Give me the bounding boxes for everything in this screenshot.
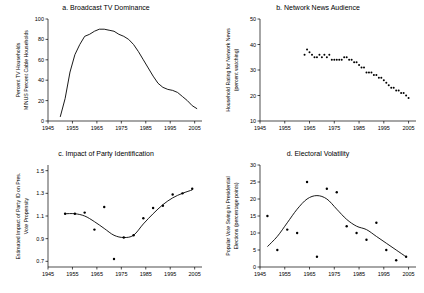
svg-text:1.3: 1.3 <box>36 190 44 196</box>
panel-d-title: d. Electoral Volatility <box>216 150 420 158</box>
svg-text:1985: 1985 <box>140 125 152 131</box>
svg-text:1995: 1995 <box>164 125 176 131</box>
svg-text:20: 20 <box>38 98 44 104</box>
panel-d-plot: 1945195519651975198519952005051015202530… <box>216 159 420 292</box>
svg-text:Popular Vote Swing in Presiden: Popular Vote Swing in Presidential <box>225 176 231 255</box>
svg-text:1965: 1965 <box>303 271 315 277</box>
panel-a-title: a. Broadcast TV Dominance <box>6 4 206 12</box>
svg-text:Estimated Impact of Party ID o: Estimated Impact of Party ID on Pres. <box>15 173 21 260</box>
svg-text:0.7: 0.7 <box>36 258 44 264</box>
svg-text:Vote Propensity: Vote Propensity <box>23 197 29 234</box>
svg-text:5: 5 <box>253 247 256 253</box>
svg-text:1985: 1985 <box>353 125 365 131</box>
svg-text:10: 10 <box>250 230 256 236</box>
panel-c: c. Impact of Party Identification 194519… <box>6 150 206 292</box>
svg-text:50: 50 <box>250 16 256 22</box>
svg-text:2005: 2005 <box>189 271 201 277</box>
svg-text:100: 100 <box>35 16 44 22</box>
panel-a: a. Broadcast TV Dominance 19451955196519… <box>6 4 206 144</box>
svg-text:1995: 1995 <box>164 271 176 277</box>
svg-text:1945: 1945 <box>254 125 266 131</box>
svg-text:MINUS Percent Cable Households: MINUS Percent Cable Households <box>23 30 29 110</box>
panel-c-plot: 19451955196519751985199520050.70.91.11.3… <box>6 159 206 292</box>
svg-text:20: 20 <box>250 196 256 202</box>
panel-d: d. Electoral Volatility 1945195519651975… <box>216 150 420 292</box>
svg-text:20: 20 <box>250 93 256 99</box>
svg-text:2005: 2005 <box>402 271 414 277</box>
svg-text:2005: 2005 <box>402 125 414 131</box>
svg-text:1995: 1995 <box>378 271 390 277</box>
svg-text:1965: 1965 <box>303 125 315 131</box>
figure-sheet: a. Broadcast TV Dominance 19451955196519… <box>0 0 424 293</box>
svg-text:40: 40 <box>250 42 256 48</box>
svg-text:60: 60 <box>38 57 44 63</box>
svg-text:40: 40 <box>38 77 44 83</box>
svg-text:30: 30 <box>250 162 256 168</box>
svg-text:Elections (percentage points): Elections (percentage points) <box>233 182 239 249</box>
svg-text:0: 0 <box>253 264 256 270</box>
svg-text:1965: 1965 <box>91 125 103 131</box>
svg-text:1975: 1975 <box>328 125 340 131</box>
svg-text:1965: 1965 <box>91 271 103 277</box>
panel-b-title: b. Network News Audience <box>216 4 420 12</box>
panel-c-title: c. Impact of Party Identification <box>6 150 206 158</box>
panel-b-plot: 19451955196519751985199520051020304050Ho… <box>216 13 420 145</box>
panel-a-plot: 1945195519651975198519952005020406080100… <box>6 13 206 145</box>
svg-text:Percent TV Households: Percent TV Households <box>15 42 21 97</box>
svg-text:25: 25 <box>250 179 256 185</box>
svg-text:1.1: 1.1 <box>36 213 44 219</box>
svg-text:1945: 1945 <box>42 271 54 277</box>
svg-text:1.5: 1.5 <box>36 168 44 174</box>
svg-text:1995: 1995 <box>378 125 390 131</box>
svg-text:10: 10 <box>250 118 256 124</box>
svg-text:1975: 1975 <box>115 125 127 131</box>
svg-text:80: 80 <box>38 36 44 42</box>
svg-text:1945: 1945 <box>254 271 266 277</box>
svg-text:0.9: 0.9 <box>36 236 44 242</box>
svg-text:30: 30 <box>250 67 256 73</box>
svg-text:1975: 1975 <box>115 271 127 277</box>
panel-b: b. Network News Audience 194519551965197… <box>216 4 420 144</box>
svg-text:1955: 1955 <box>279 125 291 131</box>
svg-text:(percent watching): (percent watching) <box>233 48 239 91</box>
svg-text:1985: 1985 <box>140 271 152 277</box>
svg-text:1975: 1975 <box>328 271 340 277</box>
svg-text:1955: 1955 <box>66 125 78 131</box>
svg-text:1985: 1985 <box>353 271 365 277</box>
svg-text:15: 15 <box>250 213 256 219</box>
svg-text:1945: 1945 <box>42 125 54 131</box>
svg-text:1955: 1955 <box>279 271 291 277</box>
svg-text:0: 0 <box>41 118 44 124</box>
svg-text:2005: 2005 <box>189 125 201 131</box>
svg-text:Household Rating for Network N: Household Rating for Network News <box>225 28 231 112</box>
svg-text:1955: 1955 <box>66 271 78 277</box>
